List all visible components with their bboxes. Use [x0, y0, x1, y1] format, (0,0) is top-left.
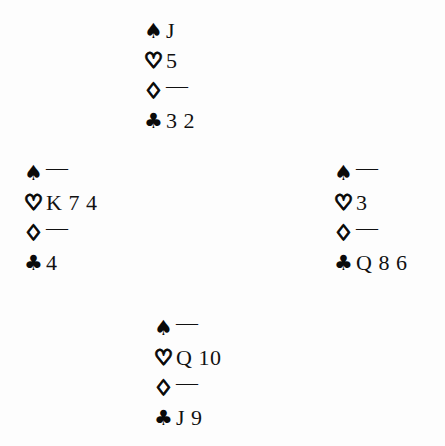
- east-spade-ranks: —: [356, 153, 379, 183]
- east-diamond-ranks: —: [356, 213, 379, 243]
- south-club-row: ♣ J 9: [154, 403, 221, 433]
- heart-icon: ♡: [334, 188, 356, 218]
- west-spade-ranks: —: [46, 153, 69, 183]
- spade-icon: ♠: [334, 158, 356, 188]
- east-spade-row: ♠ —: [334, 158, 407, 188]
- diamond-icon: ♢: [144, 76, 166, 106]
- diamond-icon: ♢: [154, 373, 176, 403]
- east-diamond-row: ♢ —: [334, 218, 407, 248]
- west-diamond-ranks: —: [46, 213, 69, 243]
- south-diamond-ranks: —: [176, 368, 199, 398]
- club-icon: ♣: [24, 248, 46, 278]
- north-club-row: ♣ 3 2: [144, 106, 195, 136]
- heart-icon: ♡: [144, 46, 166, 76]
- hand-south: ♠ — ♡ Q 10 ♢ — ♣ J 9: [154, 313, 221, 433]
- north-diamond-row: ♢ —: [144, 76, 195, 106]
- heart-icon: ♡: [154, 343, 176, 373]
- west-club-ranks: 4: [46, 248, 58, 278]
- north-club-ranks: 3 2: [166, 106, 195, 136]
- club-icon: ♣: [144, 106, 166, 136]
- north-diamond-ranks: —: [166, 71, 189, 101]
- spade-icon: ♠: [154, 313, 176, 343]
- hand-east: ♠ — ♡ 3 ♢ — ♣ Q 8 6: [334, 158, 407, 278]
- west-diamond-row: ♢ —: [24, 218, 97, 248]
- south-diamond-row: ♢ —: [154, 373, 221, 403]
- diamond-icon: ♢: [334, 218, 356, 248]
- south-spade-row: ♠ —: [154, 313, 221, 343]
- spade-icon: ♠: [144, 16, 166, 46]
- heart-icon: ♡: [24, 188, 46, 218]
- club-icon: ♣: [334, 248, 356, 278]
- west-club-row: ♣ 4: [24, 248, 97, 278]
- bridge-deal-diagram: ♠ J ♡ 5 ♢ — ♣ 3 2 ♠ — ♡ K 7 4 ♢ — ♣: [0, 0, 445, 446]
- hand-west: ♠ — ♡ K 7 4 ♢ — ♣ 4: [24, 158, 97, 278]
- spade-icon: ♠: [24, 158, 46, 188]
- east-club-row: ♣ Q 8 6: [334, 248, 407, 278]
- diamond-icon: ♢: [24, 218, 46, 248]
- west-spade-row: ♠ —: [24, 158, 97, 188]
- south-club-ranks: J 9: [176, 403, 203, 433]
- south-spade-ranks: —: [176, 308, 199, 338]
- hand-north: ♠ J ♡ 5 ♢ — ♣ 3 2: [144, 16, 195, 136]
- club-icon: ♣: [154, 403, 176, 433]
- east-club-ranks: Q 8 6: [356, 248, 407, 278]
- north-spade-row: ♠ J: [144, 16, 195, 46]
- north-spade-ranks: J: [166, 16, 175, 46]
